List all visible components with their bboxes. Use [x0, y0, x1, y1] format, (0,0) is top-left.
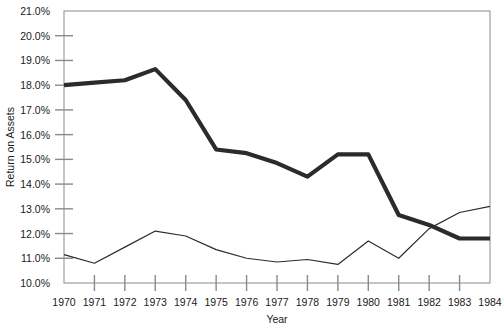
plot-frame [64, 11, 490, 283]
x-tick-label: 1979 [326, 296, 350, 308]
y-tick-label: 11.0% [21, 252, 50, 264]
x-tick-label: 1975 [204, 296, 228, 308]
x-tick-label: 1972 [113, 296, 137, 308]
x-tick-label: 1974 [174, 296, 198, 308]
x-tick-label: 1978 [296, 296, 320, 308]
y-tick-label: 17.0% [20, 104, 50, 116]
y-tick-label: 13.0% [20, 203, 50, 215]
y-axis-title: Return on Assets [4, 107, 16, 187]
chart-container: 21.0%20.0%19.0%18.0%17.0%16.0%15.0%14.0%… [0, 0, 504, 326]
y-tick-label: 14.0% [20, 178, 50, 190]
y-tick-label: 19.0% [20, 54, 50, 66]
y-tick-label: 10.0% [20, 277, 50, 289]
x-tick-label: 1970 [52, 296, 76, 308]
line-chart: 21.0%20.0%19.0%18.0%17.0%16.0%15.0%14.0%… [0, 0, 504, 326]
x-tick-label: 1983 [448, 296, 472, 308]
x-axis-tick-labels: 1970197119721973197419751976197719781979… [52, 296, 502, 308]
x-axis-title: Year [266, 313, 288, 325]
x-tick-label: 1977 [265, 296, 289, 308]
y-tick-label: 18.0% [20, 79, 50, 91]
y-tick-label: 21.0% [20, 5, 50, 17]
x-tick-label: 1971 [83, 296, 107, 308]
x-tick-label: 1982 [417, 296, 441, 308]
x-tick-label: 1984 [478, 296, 502, 308]
x-tick-label: 1973 [144, 296, 168, 308]
x-tick-label: 1980 [357, 296, 381, 308]
y-axis-tick-labels: 21.0%20.0%19.0%18.0%17.0%16.0%15.0%14.0%… [20, 5, 50, 289]
y-tick-label: 20.0% [20, 30, 50, 42]
x-tick-label: 1981 [387, 296, 411, 308]
y-tick-label: 15.0% [20, 153, 50, 165]
y-tick-label: 12.0% [20, 228, 50, 240]
y-tick-label: 16.0% [20, 129, 50, 141]
x-tick-label: 1976 [235, 296, 259, 308]
